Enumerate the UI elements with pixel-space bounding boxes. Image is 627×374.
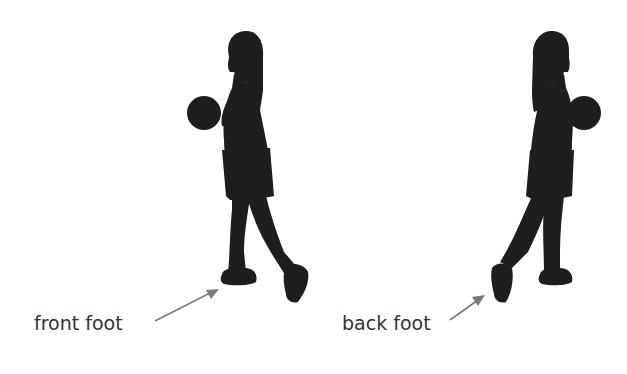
back-foot-arrow: [450, 295, 485, 320]
right-player-silhouette: [491, 31, 601, 303]
back-foot-label: back foot: [342, 312, 431, 334]
front-foot-arrow: [155, 289, 219, 321]
left-player-silhouette: [187, 31, 308, 303]
front-foot-label: front foot: [34, 312, 123, 334]
